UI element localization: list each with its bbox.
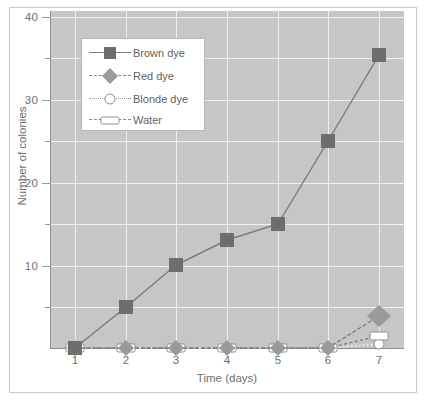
x-tick-label-4: 4 (212, 354, 242, 366)
legend-key-red-dye (87, 66, 133, 86)
legend-key-blonde-dye (87, 89, 133, 109)
legend-key-brown-dye (87, 43, 133, 63)
legend-label-blonde-dye: Blonde dye (133, 93, 188, 105)
x-tick-label-5: 5 (263, 354, 293, 366)
y-tick-15 (45, 224, 51, 225)
legend-item-blonde-dye: Blonde dye (82, 87, 204, 110)
gridline-v-1 (75, 11, 76, 348)
legend-label-water: Water (133, 114, 162, 126)
y-axis-line (50, 11, 51, 349)
x-tick-label-1: 1 (60, 354, 90, 366)
x-tick-label-7: 7 (364, 354, 394, 366)
gridline-v-5 (278, 11, 279, 348)
legend-label-red-dye: Red dye (133, 70, 174, 82)
legend-key-water (87, 110, 133, 130)
gridline-v-7 (379, 11, 380, 348)
y-tick-10 (42, 266, 51, 267)
diamond-marker-icon (101, 67, 119, 85)
y-tick-5 (45, 307, 51, 308)
y-tick-30 (42, 100, 51, 101)
legend-label-brown-dye: Brown dye (133, 47, 185, 59)
colony-growth-line-chart: 40 30 20 10 1 2 3 4 5 6 7 Time (days) Nu… (0, 0, 426, 401)
y-tick-label-10: 10 (0, 260, 38, 272)
x-tick-label-3: 3 (161, 354, 191, 366)
y-tick-20 (42, 183, 51, 184)
y-tick-35 (45, 58, 51, 59)
y-tick-label-40: 40 (0, 11, 38, 23)
y-axis-title: Number of colonies (16, 56, 28, 256)
gridline-v-4 (227, 11, 228, 348)
x-tick-label-2: 2 (111, 354, 141, 366)
x-tick-label-6: 6 (313, 354, 343, 366)
x-axis-title: Time (days) (50, 372, 404, 384)
rectangle-marker-icon (98, 114, 122, 126)
circle-marker-icon (103, 92, 117, 106)
square-marker-icon (102, 45, 118, 61)
legend: Brown dye Red dye Blonde dye (81, 38, 205, 131)
legend-item-water: Water (82, 108, 204, 131)
legend-item-brown-dye: Brown dye (82, 41, 204, 64)
y-tick-40 (42, 17, 51, 18)
gridline-v-6 (328, 11, 329, 348)
legend-item-red-dye: Red dye (82, 64, 204, 87)
y-tick-25 (45, 141, 51, 142)
x-axis-line (50, 348, 404, 349)
